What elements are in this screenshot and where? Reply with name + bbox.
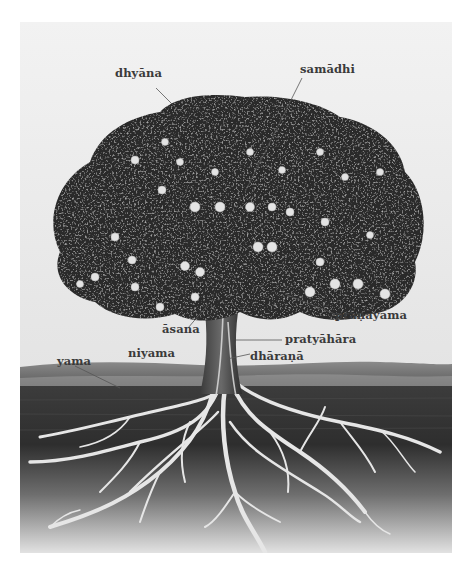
tree-illustration [20,22,452,553]
label-pratyahara: pratyāhāra [285,332,356,346]
illustration-frame [20,22,452,553]
soil [20,386,452,553]
label-pranayama: prāṇāyāma [335,308,407,322]
label-yama: yama [57,354,91,368]
label-samadhi: samādhi [300,62,355,76]
label-dharana: dhāraṇā [250,349,304,363]
label-asana: āsana [162,322,200,336]
label-dhyana: dhyāna [115,66,162,80]
label-niyama: niyama [128,346,175,360]
